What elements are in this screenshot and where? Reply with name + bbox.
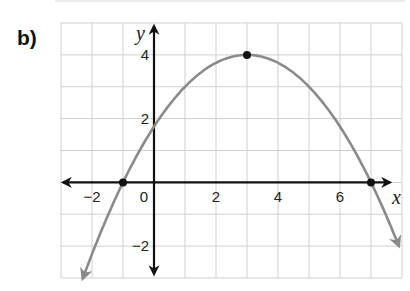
parabola-graph: −2024642−2xy — [0, 0, 410, 291]
x-tick-label: 2 — [212, 188, 220, 205]
x-tick-label: 6 — [336, 188, 344, 205]
y-tick-label: 2 — [141, 110, 149, 127]
vertex-point — [243, 51, 251, 59]
x-axis-label: x — [391, 186, 401, 208]
x-tick-label: 4 — [274, 188, 282, 205]
x-intercept-right-point — [367, 178, 375, 186]
y-tick-label: 4 — [141, 46, 149, 63]
x-tick-label: −2 — [83, 188, 100, 205]
y-tick-label: −2 — [132, 237, 149, 254]
y-axis-label: y — [134, 22, 145, 45]
x-tick-label: 0 — [140, 188, 148, 205]
x-intercept-left-point — [119, 178, 127, 186]
parabola-curve — [83, 55, 399, 279]
